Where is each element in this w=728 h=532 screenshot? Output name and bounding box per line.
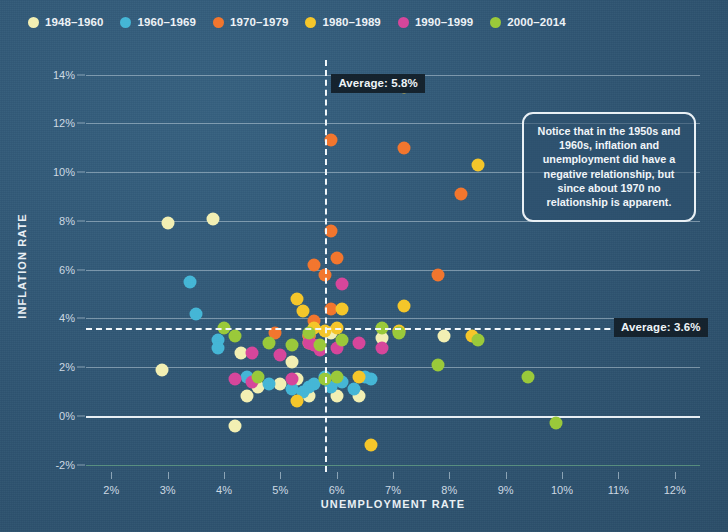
data-point[interactable] xyxy=(336,334,349,347)
y-tick-mark xyxy=(77,269,85,270)
data-point[interactable] xyxy=(212,341,225,354)
legend-item[interactable]: 1980–1989 xyxy=(305,16,380,28)
y-tick-mark xyxy=(77,367,85,368)
legend-color-dot xyxy=(120,17,131,28)
gridline-horizontal xyxy=(86,270,700,271)
gridline-horizontal xyxy=(86,416,700,418)
x-tick-mark xyxy=(280,472,281,479)
data-point[interactable] xyxy=(471,334,484,347)
legend-item[interactable]: 1960–1969 xyxy=(120,16,195,28)
legend-item-label: 1970–1979 xyxy=(230,16,288,28)
data-point[interactable] xyxy=(229,329,242,342)
legend-item-label: 2000–2014 xyxy=(507,16,565,28)
x-tick-label: 9% xyxy=(498,484,514,496)
data-point[interactable] xyxy=(522,370,535,383)
data-point[interactable] xyxy=(308,258,321,271)
data-point[interactable] xyxy=(375,341,388,354)
y-tick-mark xyxy=(77,464,85,465)
data-point[interactable] xyxy=(432,268,445,281)
data-point[interactable] xyxy=(285,356,298,369)
y-tick-label: 8% xyxy=(59,215,75,227)
gridline-horizontal xyxy=(86,318,700,319)
y-tick-label: 12% xyxy=(53,117,75,129)
data-point[interactable] xyxy=(454,188,467,201)
data-point[interactable] xyxy=(240,390,253,403)
data-point[interactable] xyxy=(251,370,264,383)
data-point[interactable] xyxy=(263,378,276,391)
data-point[interactable] xyxy=(364,439,377,452)
y-tick-label: -2% xyxy=(55,459,75,471)
data-point[interactable] xyxy=(206,212,219,225)
legend: 1948–19601960–19691970–19791980–19891990… xyxy=(28,12,566,32)
y-tick-mark xyxy=(77,123,85,124)
legend-item-label: 1990–1999 xyxy=(415,16,473,28)
legend-color-dot xyxy=(213,17,224,28)
data-point[interactable] xyxy=(285,373,298,386)
x-tick-mark xyxy=(224,472,225,479)
y-tick-label: 2% xyxy=(59,361,75,373)
data-point[interactable] xyxy=(189,307,202,320)
data-point[interactable] xyxy=(229,373,242,386)
data-point[interactable] xyxy=(156,363,169,376)
data-point[interactable] xyxy=(313,339,326,352)
gridline-horizontal xyxy=(86,465,700,466)
legend-color-dot xyxy=(398,17,409,28)
data-point[interactable] xyxy=(161,217,174,230)
data-point[interactable] xyxy=(353,370,366,383)
data-point[interactable] xyxy=(353,336,366,349)
x-tick-mark xyxy=(506,472,507,479)
legend-item-label: 1960–1969 xyxy=(137,16,195,28)
data-point[interactable] xyxy=(330,370,343,383)
y-tick-mark xyxy=(77,74,85,75)
data-point[interactable] xyxy=(336,278,349,291)
legend-item[interactable]: 1970–1979 xyxy=(213,16,288,28)
data-point[interactable] xyxy=(291,292,304,305)
data-point[interactable] xyxy=(274,349,287,362)
x-tick-mark xyxy=(393,472,394,479)
data-point[interactable] xyxy=(336,302,349,315)
data-point[interactable] xyxy=(471,158,484,171)
y-axis-title: INFLATION RATE xyxy=(16,213,28,318)
x-tick-mark xyxy=(168,472,169,479)
legend-item[interactable]: 1990–1999 xyxy=(398,16,473,28)
y-tick-label: 6% xyxy=(59,264,75,276)
y-tick-mark xyxy=(77,220,85,221)
y-tick-label: 10% xyxy=(53,166,75,178)
annotation-callout: Notice that in the 1950s and 1960s, infl… xyxy=(522,112,696,222)
data-point[interactable] xyxy=(296,305,309,318)
average-unemployment-line xyxy=(325,60,327,472)
x-tick-mark xyxy=(111,472,112,479)
data-point[interactable] xyxy=(398,300,411,313)
x-tick-mark xyxy=(618,472,619,479)
legend-item[interactable]: 2000–2014 xyxy=(490,16,565,28)
x-tick-label: 8% xyxy=(441,484,457,496)
average-inflation-line xyxy=(86,328,700,330)
average-inflation-label: Average: 3.6% xyxy=(614,318,708,337)
y-tick-mark xyxy=(77,415,85,416)
legend-color-dot xyxy=(305,17,316,28)
data-point[interactable] xyxy=(229,419,242,432)
x-tick-mark xyxy=(449,472,450,479)
x-tick-label: 3% xyxy=(160,484,176,496)
legend-color-dot xyxy=(28,17,39,28)
x-tick-label: 6% xyxy=(329,484,345,496)
data-point[interactable] xyxy=(347,383,360,396)
data-point[interactable] xyxy=(398,141,411,154)
x-tick-label: 11% xyxy=(608,484,629,496)
data-point[interactable] xyxy=(437,329,450,342)
x-tick-label: 12% xyxy=(664,484,686,496)
data-point[interactable] xyxy=(432,358,445,371)
data-point[interactable] xyxy=(550,417,563,430)
y-tick-mark xyxy=(77,172,85,173)
data-point[interactable] xyxy=(184,275,197,288)
x-tick-label: 2% xyxy=(103,484,119,496)
data-point[interactable] xyxy=(291,395,304,408)
data-point[interactable] xyxy=(285,339,298,352)
data-point[interactable] xyxy=(263,336,276,349)
data-point[interactable] xyxy=(246,346,259,359)
x-tick-mark xyxy=(337,472,338,479)
legend-item[interactable]: 1948–1960 xyxy=(28,16,103,28)
data-point[interactable] xyxy=(330,251,343,264)
legend-item-label: 1980–1989 xyxy=(322,16,380,28)
data-point[interactable] xyxy=(364,373,377,386)
